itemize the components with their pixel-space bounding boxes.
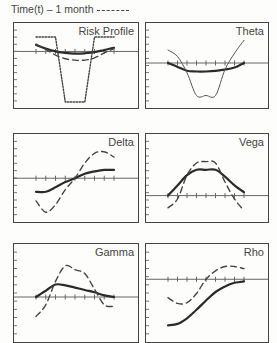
chart-gamma <box>14 244 138 342</box>
chart-vega <box>146 134 268 222</box>
chart-delta <box>14 134 138 222</box>
series-line-solid <box>36 170 114 192</box>
panel-gamma: Gamma <box>13 243 139 343</box>
chart-risk-profile <box>14 23 138 108</box>
series-line-dashed <box>168 266 244 304</box>
chart-theta <box>146 23 268 108</box>
panel-risk-profile: Risk Profile <box>13 22 139 109</box>
series-line-dashed <box>36 151 114 212</box>
legend: Time(t) – 1 month <box>11 3 129 15</box>
legend-label: Time(t) – 1 month <box>11 3 93 15</box>
series-line-dotted <box>36 37 114 102</box>
panel-rho: Rho <box>145 243 269 343</box>
panel-vega: Vega <box>145 133 269 223</box>
series-line-solid <box>168 169 244 195</box>
panel-theta: Theta <box>145 22 269 109</box>
series-line-dashed <box>168 161 244 211</box>
panel-delta: Delta <box>13 133 139 223</box>
legend-dashed-line-sample <box>97 10 129 11</box>
series-line-dashed <box>36 265 114 316</box>
chart-rho <box>146 244 268 342</box>
